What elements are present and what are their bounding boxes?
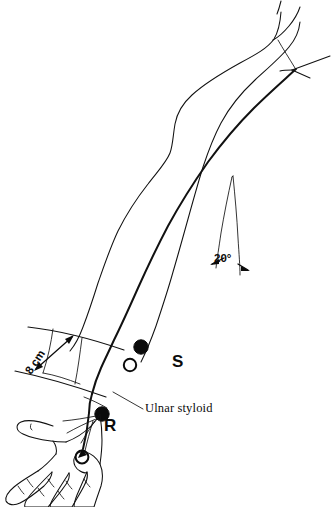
measure-connector-right — [75, 338, 82, 384]
upper-arm-edge-a — [277, 1, 281, 14]
finger-ring-joint — [66, 481, 72, 489]
stimulation-site-label-r: R — [104, 417, 116, 434]
finger-ring-joint2 — [58, 491, 64, 499]
elbow-fork-stem — [280, 70, 292, 71]
arm-outline-radial — [70, 12, 281, 351]
measure-connector-left — [43, 329, 53, 373]
ulnar-nerve-course — [92, 69, 296, 394]
electrode-s-cathode — [134, 340, 148, 354]
wrist-crease — [84, 397, 107, 408]
angle-wedge-right — [233, 176, 240, 275]
thumb-nail — [30, 424, 32, 430]
electrode-s-anode — [124, 359, 136, 371]
finger-index-joint — [27, 479, 33, 487]
thumb-outline — [17, 421, 66, 442]
finger-index-joint2 — [18, 486, 24, 494]
ulnar-styloid-label: Ulnar styloid — [145, 402, 213, 415]
finger-middle-joint — [48, 479, 54, 487]
thumb-web-crease — [53, 441, 56, 454]
finger-middle — [25, 472, 70, 507]
angle-label: 20° — [214, 253, 231, 265]
stimulation-site-label-s: S — [172, 353, 183, 370]
palm-radial-border — [38, 454, 56, 471]
finger-index — [6, 471, 52, 505]
ulnar-styloid-leader — [113, 392, 143, 409]
elbow-fork-upper — [292, 56, 330, 70]
arm-line-drawing — [0, 0, 333, 507]
upper-arm-edge-b — [273, 7, 300, 40]
elbow-crease — [278, 40, 295, 68]
measure-line-proximal — [28, 327, 124, 350]
anatomical-figure: S R 20° 8 cm Ulnar styloid — [0, 0, 333, 507]
digital-branch-a — [63, 416, 96, 421]
arm-outline-ulnar — [141, 22, 300, 362]
